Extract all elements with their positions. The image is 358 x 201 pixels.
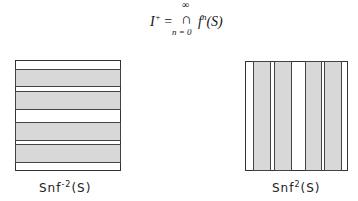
formula-lhs: I+ = [150,12,172,30]
horizontal-band [15,91,121,110]
horizontal-band [15,122,121,141]
horizontal-band [15,69,121,87]
lower-limit: n = 0 [172,27,192,37]
vertical-band [305,61,322,171]
intersection-formula: I+ = ∞ ∩ n = 0 fn(S) [0,0,358,40]
intersection-operator: ∩ [181,11,192,28]
vertical-band [274,61,292,171]
vertical-strips-diagram [245,61,348,171]
upper-limit: ∞ [182,0,189,10]
horizontal-band [15,144,121,163]
left-diagram-label: Snf-2(S) [39,180,91,195]
vertical-band [253,61,271,171]
vertical-band [324,61,342,171]
right-diagram-label: Snf2(S) [272,180,321,195]
horizontal-strips-diagram [15,60,121,171]
formula-rhs: fn(S) [198,12,223,30]
